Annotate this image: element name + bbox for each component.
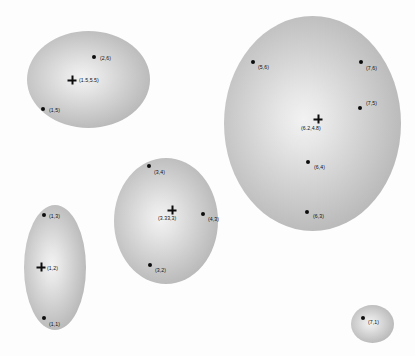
data-point-label: (5,6) <box>258 65 269 70</box>
data-point-label: (6,3) <box>313 214 324 219</box>
data-point-marker <box>251 60 255 64</box>
centroid-marker-cluster-4 <box>314 115 323 124</box>
centroid-label-cluster-4: (6.2,4.8) <box>301 126 321 131</box>
data-point-label: (6,4) <box>314 165 325 170</box>
data-point-marker <box>358 106 362 110</box>
data-point-marker <box>41 107 45 111</box>
data-point-label: (1,3) <box>49 214 60 219</box>
cluster-right-large <box>224 16 401 231</box>
data-point-marker <box>359 60 363 64</box>
cluster-plot-canvas: (1.5,5.5) (2,6) (1,5) (1,2) (1,3) (1,1) … <box>0 0 415 356</box>
data-point-marker <box>147 164 151 168</box>
data-point-marker <box>42 213 46 217</box>
centroid-marker-cluster-1 <box>68 76 77 85</box>
data-point-marker <box>92 55 96 59</box>
centroid-label-cluster-1: (1.5,5.5) <box>79 78 99 83</box>
cluster-ellipse-shape <box>224 16 401 231</box>
data-point-label: (1,1) <box>49 322 60 327</box>
data-point-label: (4,3) <box>208 217 219 222</box>
data-point-marker <box>305 210 309 214</box>
data-point-marker <box>42 316 46 320</box>
centroid-label-cluster-2: (1,2) <box>47 266 58 271</box>
centroid-marker-cluster-3 <box>168 206 177 215</box>
data-point-label: (7,1) <box>368 320 379 325</box>
data-point-label: (3,2) <box>155 268 166 273</box>
data-point-label: (1,5) <box>49 108 60 113</box>
data-point-label: (7,5) <box>366 101 377 106</box>
centroid-label-cluster-3: (3.33,3) <box>158 216 176 221</box>
data-point-marker <box>306 160 310 164</box>
data-point-label: (2,6) <box>100 56 111 61</box>
data-point-label: (7,6) <box>366 66 377 71</box>
data-point-marker <box>148 263 152 267</box>
data-point-marker <box>361 316 365 320</box>
data-point-marker <box>201 212 205 216</box>
data-point-label: (3,4) <box>154 170 165 175</box>
centroid-marker-cluster-2 <box>37 263 46 272</box>
